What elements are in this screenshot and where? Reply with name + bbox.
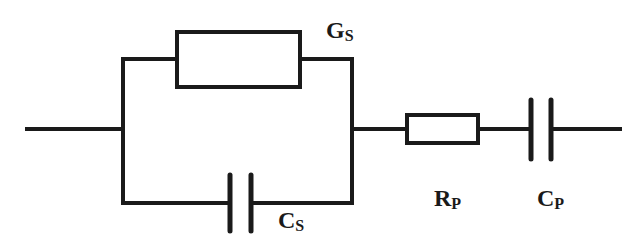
label-cs-main: C <box>278 207 295 233</box>
label-cp-main: C <box>537 185 554 211</box>
label-gs: GS <box>326 18 354 42</box>
label-cs: CS <box>278 208 304 232</box>
label-gs-main: G <box>326 17 345 43</box>
resistor-rp <box>407 115 478 143</box>
label-gs-sub: S <box>345 27 354 44</box>
resistor-gs <box>177 32 300 87</box>
label-cs-sub: S <box>295 217 304 234</box>
label-cp-sub: P <box>554 195 564 212</box>
label-cp: CP <box>537 186 564 210</box>
label-rp-sub: P <box>451 195 461 212</box>
label-rp-main: R <box>434 185 451 211</box>
label-rp: RP <box>434 186 461 210</box>
